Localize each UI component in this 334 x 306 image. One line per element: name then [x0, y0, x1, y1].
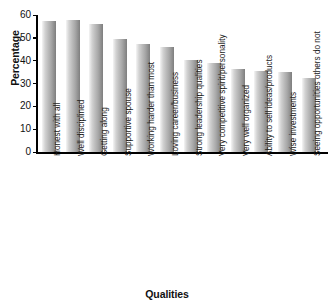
y-tick-mark [33, 15, 36, 16]
y-tick-label: 10 [20, 122, 31, 135]
y-tick-mark [33, 60, 36, 61]
x-axis-title: Qualities [0, 288, 334, 300]
x-tick-label: Wise investments [289, 92, 298, 156]
y-tick-mark [33, 129, 36, 130]
y-tick-label: 20 [20, 99, 31, 112]
x-tick-label: Supportive spouse [124, 88, 133, 156]
y-tick-label: 30 [20, 77, 31, 90]
y-tick-label: 50 [20, 31, 31, 44]
y-tick-label: 0 [25, 145, 31, 158]
y-tick-mark [33, 152, 36, 153]
y-tick-mark [33, 83, 36, 84]
x-tick-label: Very competitive spirit/personality [218, 35, 227, 157]
x-tick-label: Loving career/business [171, 72, 180, 156]
y-tick-label: 60 [20, 8, 31, 21]
x-tick-label: Very well organized [242, 85, 251, 156]
bar-chart: Percentage 0102030405060 Honest with all… [0, 0, 334, 306]
y-tick-mark [33, 37, 36, 38]
x-axis-category-labels: Honest with allWell disciplinedGetting a… [38, 156, 330, 286]
x-tick-label: Strong leadership qualities [195, 60, 204, 157]
y-tick-label: 40 [20, 54, 31, 67]
x-tick-label: Ability to sell ideas/products [265, 55, 274, 156]
x-tick-label: Honest with all [53, 103, 62, 156]
x-tick-label: Seeing opportunities others do not [313, 31, 322, 156]
y-tick-mark [33, 106, 36, 107]
x-tick-label: Well disciplined [77, 100, 86, 156]
x-tick-label: Getting along [100, 107, 109, 156]
x-tick-label: Working harder than most [147, 62, 156, 156]
